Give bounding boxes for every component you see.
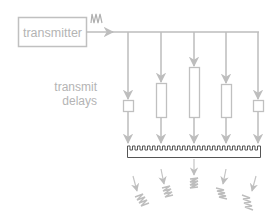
wave-squiggle-icon [162,186,173,197]
channel-1 [124,32,134,143]
delay-box-1 [124,101,134,112]
channel-5 [254,32,264,143]
delays-label-line2: delays [62,94,97,108]
wavefront-squiggles [135,178,253,210]
wave-squiggle-icon [216,188,227,199]
pulse-squiggle-icon [91,14,102,23]
transducer-array [128,146,261,158]
delay-box-4 [222,85,232,118]
delays-label-line1: transmit [54,80,97,94]
transducer-elements [128,146,261,158]
channel-4 [222,32,232,143]
beamforming-diagram: transmitter transmit delays [0,0,272,223]
channel-2 [157,32,167,143]
transmitter-label: transmitter [23,26,82,40]
wave-squiggle-icon [242,195,253,210]
channel-3 [190,32,200,143]
wave-squiggle-icon [190,178,198,188]
delay-box-2 [157,84,167,118]
wave-squiggle-icon [135,194,149,206]
delay-box-3 [190,68,200,118]
delay-box-5 [254,101,264,112]
transmitter-block: transmitter [19,18,87,47]
